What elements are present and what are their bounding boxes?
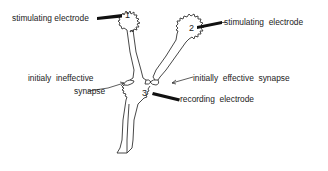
recording-electrode-bar xyxy=(152,92,180,102)
electrodes xyxy=(97,14,222,102)
stimulating-electrode-1-label: stimulating electrode xyxy=(12,13,89,23)
effective-synapse-label: initially effective synapse xyxy=(193,73,290,83)
neuron-3-number: 3 xyxy=(142,88,147,98)
recording-electrode-label: recording electrode xyxy=(180,94,254,104)
neuron-2-shape xyxy=(153,14,204,80)
synapse-knobs xyxy=(124,80,159,86)
ineffective-synapse-label-line2: synapse xyxy=(74,86,105,96)
neuron-1-shape xyxy=(118,11,146,80)
neuron-diagram: 1 2 3 stimulating electrode stimulating … xyxy=(0,0,328,171)
neuron-1-number: 1 xyxy=(125,10,130,20)
stimulating-electrode-1-bar xyxy=(97,14,122,20)
neuron-2-number: 2 xyxy=(189,23,194,33)
effective-synapse-arrow xyxy=(172,77,193,83)
stimulating-electrode-2-label: stimulating electrode xyxy=(224,17,303,27)
ineffective-synapse-label-line1: initialy ineffective xyxy=(28,73,93,83)
